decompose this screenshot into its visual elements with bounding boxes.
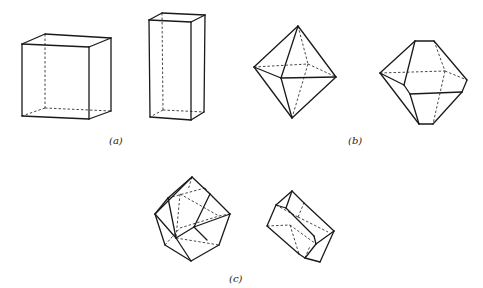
octahedron bbox=[254, 26, 336, 118]
crystal-forms-figure bbox=[0, 0, 483, 288]
caption-a: (a) bbox=[109, 135, 123, 146]
visible-edge bbox=[155, 214, 176, 238]
visible-edge bbox=[434, 41, 467, 80]
visible-edge bbox=[176, 227, 194, 238]
hidden-edge bbox=[22, 108, 45, 116]
hidden-edge bbox=[176, 238, 219, 245]
hidden-edge bbox=[45, 108, 111, 111]
visible-edge bbox=[149, 13, 162, 20]
rhombic-dodecahedron bbox=[155, 177, 230, 261]
visible-edge bbox=[191, 245, 219, 261]
visible-edge bbox=[267, 205, 276, 226]
visible-edge bbox=[433, 92, 462, 124]
visible-edge bbox=[191, 15, 205, 22]
hidden-edge bbox=[267, 225, 290, 226]
visible-edge bbox=[305, 244, 316, 258]
visible-edge bbox=[155, 214, 165, 245]
visible-edge bbox=[168, 198, 176, 238]
visible-edge bbox=[150, 117, 191, 120]
visible-edge bbox=[299, 254, 305, 258]
hidden-edge bbox=[162, 13, 163, 110]
visible-edge bbox=[191, 112, 204, 120]
visible-edge bbox=[22, 44, 89, 47]
visible-edge bbox=[380, 73, 404, 85]
visible-edge bbox=[404, 41, 415, 85]
visible-edge bbox=[380, 73, 419, 124]
visible-edge bbox=[298, 26, 336, 77]
cube bbox=[22, 34, 111, 119]
panel-b bbox=[254, 26, 467, 124]
hidden-edge bbox=[380, 71, 445, 73]
caption-b: (b) bbox=[348, 135, 362, 146]
visible-edge bbox=[204, 15, 205, 112]
truncated-octahedron bbox=[380, 41, 467, 124]
visible-edge bbox=[192, 177, 210, 194]
visible-edge bbox=[304, 203, 334, 231]
hidden-edge bbox=[176, 194, 180, 238]
tall-prism bbox=[149, 13, 205, 120]
visible-edge bbox=[45, 34, 111, 38]
hidden-edge bbox=[434, 41, 445, 71]
hidden-edge bbox=[150, 110, 163, 117]
hidden-edge bbox=[254, 64, 308, 67]
caption-c: (c) bbox=[229, 273, 242, 284]
visible-edge bbox=[462, 80, 467, 92]
visible-edge bbox=[292, 191, 304, 203]
visible-edge bbox=[380, 41, 415, 73]
panel-a bbox=[22, 13, 205, 120]
visible-edge bbox=[404, 85, 410, 94]
visible-edge bbox=[219, 214, 230, 245]
visible-edge bbox=[22, 116, 89, 119]
visible-edge bbox=[162, 13, 205, 15]
visible-edge bbox=[410, 94, 419, 124]
visible-edge bbox=[149, 20, 150, 117]
hidden-edge bbox=[180, 216, 219, 228]
visible-edge bbox=[89, 38, 111, 47]
hidden-edge bbox=[433, 71, 445, 124]
visible-edge bbox=[176, 238, 191, 261]
panel-c bbox=[155, 177, 334, 262]
visible-edge bbox=[194, 227, 207, 240]
hidden-edge bbox=[163, 110, 204, 112]
visible-edge bbox=[22, 34, 45, 44]
visible-edge bbox=[314, 236, 316, 244]
visible-edge bbox=[410, 92, 462, 94]
visible-edge bbox=[89, 111, 111, 119]
visible-edge bbox=[210, 194, 230, 214]
visible-edge bbox=[292, 77, 336, 118]
elongated-dodecahedron bbox=[267, 191, 334, 262]
visible-edge bbox=[149, 20, 191, 22]
visible-edge bbox=[305, 258, 320, 262]
visible-edge bbox=[281, 78, 292, 118]
visible-edge bbox=[155, 198, 168, 214]
hidden-edge bbox=[298, 203, 304, 217]
visible-edge bbox=[281, 77, 336, 78]
visible-edge bbox=[165, 245, 191, 261]
